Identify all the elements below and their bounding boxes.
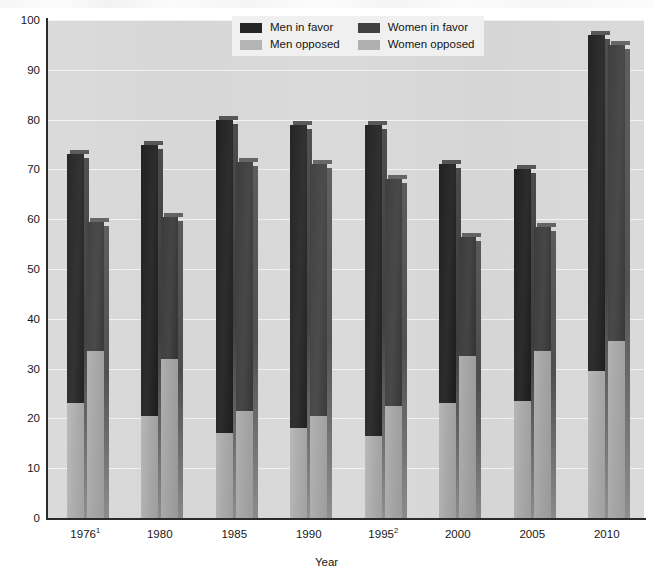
women-favor-swatch-icon [358, 23, 380, 33]
bar-segment-women-in-favor-1976[interactable] [87, 222, 104, 351]
bar-segment-men-in-favor-1990[interactable] [290, 125, 307, 429]
bar-side-face-women-1990 [327, 168, 332, 518]
bar-segment-men-in-favor-2000[interactable] [439, 164, 456, 403]
bar-men-1976[interactable] [67, 154, 84, 518]
chart-figure: 0102030405060708090100 19761198019851990… [0, 0, 653, 575]
y-tick-label-100: 100 [2, 14, 40, 26]
bar-top-face-women-2000 [462, 233, 481, 237]
bar-segment-men-in-favor-1976[interactable] [67, 154, 84, 403]
bar-women-2010[interactable] [608, 45, 625, 518]
bar-men-1985[interactable] [216, 120, 233, 518]
bar-top-face-men-2000 [442, 160, 461, 164]
bar-side-face-women-2010 [625, 49, 630, 518]
legend-item-men-opposed[interactable]: Men opposed [240, 38, 340, 51]
bar-women-1995[interactable] [385, 179, 402, 518]
bar-men-1980[interactable] [141, 145, 158, 519]
bar-women-1980[interactable] [161, 217, 178, 518]
x-tick-label-1985: 1985 [194, 528, 274, 540]
bar-side-face-women-2000 [476, 241, 481, 518]
bar-top-face-men-1976 [70, 150, 89, 154]
bar-side-face-women-1985 [253, 166, 258, 518]
bar-segment-men-opposed-2000[interactable] [439, 403, 456, 518]
bar-top-face-men-1990 [293, 121, 312, 125]
bar-top-face-women-1990 [313, 160, 332, 164]
bar-segment-women-opposed-1980[interactable] [161, 359, 178, 518]
legend-item-women-in-favor[interactable]: Women in favor [358, 21, 475, 34]
bar-segment-men-in-favor-1980[interactable] [141, 145, 158, 416]
bar-segment-women-in-favor-2010[interactable] [608, 45, 625, 341]
bar-segment-men-opposed-1980[interactable] [141, 416, 158, 518]
bar-segment-women-opposed-1995[interactable] [385, 406, 402, 518]
bar-segment-men-opposed-1985[interactable] [216, 433, 233, 518]
y-tick-label-70: 70 [2, 163, 40, 175]
bar-segment-women-opposed-2010[interactable] [608, 341, 625, 518]
bar-segment-men-opposed-2005[interactable] [514, 401, 531, 518]
bar-women-1976[interactable] [87, 222, 104, 518]
bar-segment-women-in-favor-1980[interactable] [161, 217, 178, 359]
bar-segment-women-opposed-1985[interactable] [236, 411, 253, 518]
bar-segment-women-in-favor-1995[interactable] [385, 179, 402, 406]
bar-women-2000[interactable] [459, 237, 476, 518]
bar-segment-women-in-favor-2005[interactable] [534, 227, 551, 352]
x-tick-footnote-marker: 1 [96, 526, 100, 535]
legend-label-women-opposed: Women opposed [388, 38, 475, 51]
bar-series-container [48, 20, 644, 518]
plot-area [48, 20, 644, 518]
legend-column-men: Men in favor Men opposed [240, 21, 340, 51]
x-tick-footnote-marker: 2 [394, 526, 398, 535]
y-tick-label-10: 10 [2, 462, 40, 474]
bar-top-face-men-2005 [517, 165, 536, 169]
bar-segment-women-opposed-1976[interactable] [87, 351, 104, 518]
bar-side-face-women-1980 [178, 221, 183, 518]
bar-top-face-men-1985 [219, 116, 238, 120]
chart-legend: Men in favor Men opposed Women in favor … [232, 16, 484, 56]
bar-top-face-women-1995 [388, 175, 407, 179]
y-tick-label-30: 30 [2, 363, 40, 375]
bar-segment-men-opposed-1995[interactable] [365, 436, 382, 518]
legend-item-women-opposed[interactable]: Women opposed [358, 38, 475, 51]
x-axis-line [46, 518, 646, 520]
women-opposed-swatch-icon [358, 40, 380, 50]
bar-segment-women-opposed-1990[interactable] [310, 416, 327, 518]
bar-top-face-women-1976 [90, 218, 109, 222]
x-tick-label-2005: 2005 [492, 528, 572, 540]
y-axis-line [46, 18, 48, 520]
plot-inner [48, 20, 644, 518]
y-tick-label-80: 80 [2, 114, 40, 126]
scan-noise-band [0, 0, 653, 8]
x-tick-label-2010: 2010 [567, 528, 647, 540]
y-tick-label-50: 50 [2, 263, 40, 275]
bar-women-1985[interactable] [236, 162, 253, 518]
bar-segment-men-opposed-1990[interactable] [290, 428, 307, 518]
x-tick-label-1990: 1990 [269, 528, 349, 540]
y-tick-label-90: 90 [2, 64, 40, 76]
bar-men-1990[interactable] [290, 125, 307, 518]
bar-women-2005[interactable] [534, 227, 551, 518]
y-tick-label-60: 60 [2, 213, 40, 225]
bar-segment-men-in-favor-2010[interactable] [588, 35, 605, 371]
bar-segment-women-opposed-2000[interactable] [459, 356, 476, 518]
legend-label-men-in-favor: Men in favor [270, 21, 333, 34]
bar-men-1995[interactable] [365, 125, 382, 518]
bar-segment-men-opposed-1976[interactable] [67, 403, 84, 518]
y-tick-label-40: 40 [2, 313, 40, 325]
bar-segment-men-in-favor-1985[interactable] [216, 120, 233, 434]
x-tick-label-1976: 19761 [45, 528, 125, 540]
bar-women-1990[interactable] [310, 164, 327, 518]
bar-segment-women-opposed-2005[interactable] [534, 351, 551, 518]
bar-men-2000[interactable] [439, 164, 456, 518]
bar-top-face-men-1995 [368, 121, 387, 125]
bar-men-2005[interactable] [514, 169, 531, 518]
legend-item-men-in-favor[interactable]: Men in favor [240, 21, 340, 34]
legend-label-women-in-favor: Women in favor [388, 21, 468, 34]
bar-segment-men-in-favor-1995[interactable] [365, 125, 382, 436]
bar-segment-men-in-favor-2005[interactable] [514, 169, 531, 401]
bar-side-face-women-2005 [551, 231, 556, 518]
y-tick-label-20: 20 [2, 412, 40, 424]
bar-segment-women-in-favor-1990[interactable] [310, 164, 327, 415]
bar-segment-women-in-favor-1985[interactable] [236, 162, 253, 411]
bar-segment-women-in-favor-2000[interactable] [459, 237, 476, 357]
bar-segment-men-opposed-2010[interactable] [588, 371, 605, 518]
bar-men-2010[interactable] [588, 35, 605, 518]
bar-top-face-women-1980 [164, 213, 183, 217]
